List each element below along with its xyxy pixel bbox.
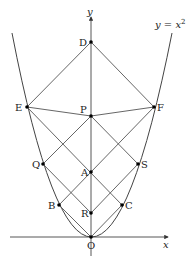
point-P — [89, 114, 93, 118]
point-E — [25, 105, 29, 109]
segment-DF — [91, 42, 154, 107]
label-P: P — [80, 104, 87, 115]
point-C — [120, 203, 124, 207]
label-A: A — [80, 167, 89, 178]
label-O: O — [87, 240, 95, 251]
point-S — [136, 162, 140, 166]
segment-PS — [91, 116, 138, 164]
label-R: R — [81, 208, 89, 219]
point-Q — [41, 162, 45, 166]
label-D: D — [79, 37, 87, 48]
label-B: B — [48, 200, 55, 211]
point-F — [152, 105, 156, 109]
point-O — [89, 235, 93, 239]
point-B — [57, 203, 61, 207]
label-E: E — [15, 102, 22, 113]
point-A — [89, 170, 93, 174]
label-C: C — [125, 200, 133, 211]
label-F: F — [157, 102, 164, 113]
curve-label: y = x2 — [154, 18, 186, 30]
segment-PF — [91, 107, 154, 116]
point-R — [89, 211, 93, 215]
points — [25, 40, 156, 239]
point-D — [89, 40, 93, 44]
segments — [27, 42, 154, 237]
segment-PQ — [43, 116, 91, 164]
segment-CO — [91, 205, 122, 237]
label-Q: Q — [32, 159, 40, 170]
segment-DE — [27, 42, 91, 107]
parabola-diagram: D E F P Q S A B C R O y x y = x2 — [0, 0, 193, 262]
label-S: S — [141, 159, 148, 170]
y-axis-label: y — [86, 6, 93, 17]
x-axis-label: x — [163, 239, 169, 250]
segment-FB — [59, 107, 154, 205]
parabola-curve — [12, 33, 172, 237]
